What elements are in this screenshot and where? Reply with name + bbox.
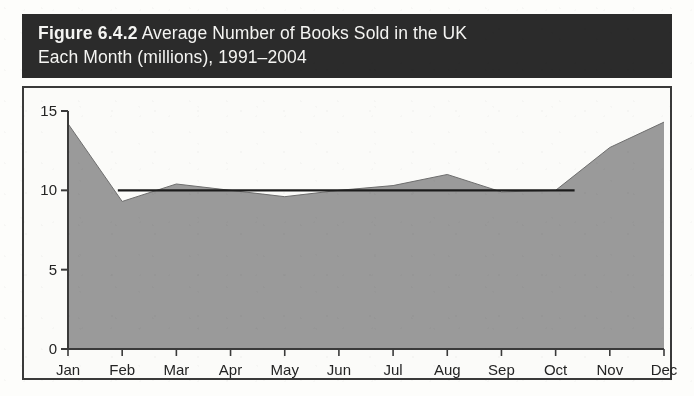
x-axis-label-sep: Sep [478,362,524,377]
x-axis-label-apr: Apr [208,362,254,377]
figure-title-text: Average Number of Books Sold in the UK [138,23,467,43]
x-axis-label-oct: Oct [533,362,579,377]
y-axis-label-5: 5 [31,262,57,277]
figure-title-line-2: Each Month (millions), 1991–2004 [38,45,656,69]
y-axis-label-0: 0 [31,341,57,356]
figure-container: Figure 6.4.2 Average Number of Books Sol… [0,0,694,396]
chart-layers [61,111,664,356]
x-axis-label-jan: Jan [45,362,91,377]
x-axis-label-aug: Aug [424,362,470,377]
x-axis-ticks [68,349,664,356]
x-axis-label-feb: Feb [99,362,145,377]
figure-number: Figure 6.4.2 [38,23,138,43]
area-chart-svg [24,88,674,382]
y-axis-ticks [61,111,68,349]
x-axis-label-jul: Jul [370,362,416,377]
area-series-fill [68,122,664,349]
plot-area: 051015 JanFebMarAprMayJunJulAugSepOctNov… [24,88,674,382]
chart-frame: 051015 JanFebMarAprMayJunJulAugSepOctNov… [22,86,672,380]
x-axis-label-jun: Jun [316,362,362,377]
x-axis-label-dec: Dec [641,362,687,377]
figure-title-line-1: Figure 6.4.2 Average Number of Books Sol… [38,21,656,45]
x-axis-label-may: May [262,362,308,377]
y-axis-label-15: 15 [31,103,57,118]
figure-header: Figure 6.4.2 Average Number of Books Sol… [22,14,672,78]
y-axis-label-10: 10 [31,182,57,197]
x-axis-label-nov: Nov [587,362,633,377]
x-axis-label-mar: Mar [153,362,199,377]
